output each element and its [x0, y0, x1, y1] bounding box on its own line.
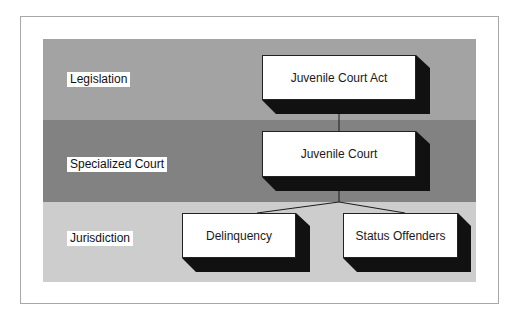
band-label-specialized-court: Specialized Court: [67, 157, 167, 172]
node-juvenile-court-act: Juvenile Court Act: [262, 55, 416, 100]
node-label: Delinquency: [182, 213, 296, 258]
node-status-offenders: Status Offenders: [343, 213, 458, 258]
node-delinquency: Delinquency: [182, 213, 296, 258]
band-label-jurisdiction: Jurisdiction: [67, 231, 133, 246]
node-label: Juvenile Court Act: [262, 55, 416, 100]
band-label-legislation: Legislation: [67, 72, 130, 87]
node-label: Status Offenders: [343, 213, 458, 258]
node-label: Juvenile Court: [262, 131, 416, 177]
node-juvenile-court: Juvenile Court: [262, 131, 416, 177]
